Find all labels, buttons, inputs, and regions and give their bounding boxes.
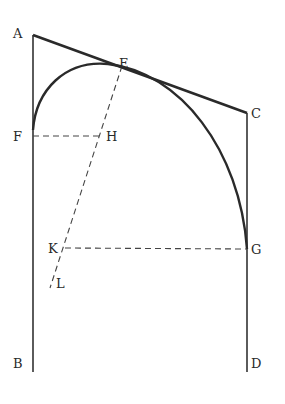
label-K: K bbox=[48, 241, 58, 256]
label-C: C bbox=[251, 106, 261, 121]
label-F: F bbox=[13, 129, 22, 144]
geometric-diagram: A E C F H K G L B D bbox=[0, 0, 285, 404]
dashed-line-KG bbox=[65, 248, 247, 249]
dashed-line-EL bbox=[50, 66, 122, 288]
label-L: L bbox=[56, 276, 65, 291]
label-H: H bbox=[106, 129, 117, 144]
label-A: A bbox=[12, 26, 23, 41]
label-E: E bbox=[119, 56, 129, 71]
label-B: B bbox=[13, 356, 23, 371]
label-D: D bbox=[251, 356, 261, 371]
label-G: G bbox=[251, 242, 261, 257]
curve-FEG bbox=[33, 64, 247, 249]
